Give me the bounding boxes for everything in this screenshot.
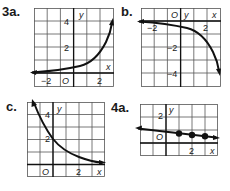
- tick-label-x-2: 2: [203, 23, 208, 33]
- tick-label-y-neg4: −4: [167, 69, 177, 79]
- y-axis-label: y: [168, 105, 174, 115]
- problem-label-b: b.: [121, 5, 133, 18]
- y-axis-label: y: [183, 10, 189, 20]
- tick-label-x-2: 2: [97, 76, 102, 86]
- tick-label-x-2: 2: [189, 146, 194, 156]
- arrow-left-icon: [30, 70, 37, 75]
- data-point: [202, 133, 208, 139]
- y-axis-label: y: [56, 104, 62, 114]
- origin-label: O: [42, 167, 49, 177]
- x-axis-label: x: [105, 62, 111, 72]
- tick-label-x-2: 2: [76, 167, 81, 177]
- tick-label-y-4: 4: [45, 110, 50, 120]
- origin-label: O: [62, 76, 69, 86]
- data-point: [176, 130, 182, 136]
- origin-label: O: [156, 132, 163, 142]
- arrow-left-icon: [135, 126, 142, 131]
- tick-label-y-2: 2: [64, 43, 69, 53]
- tick-label-y-2: 2: [158, 111, 163, 121]
- tick-label-y-2: 2: [45, 134, 50, 144]
- x-axis-label: x: [211, 10, 217, 20]
- data-point: [189, 132, 195, 138]
- tick-label-x-neg2: −2: [41, 76, 51, 86]
- problem-label-c: c.: [6, 100, 17, 113]
- tick-label-y-4: 4: [64, 17, 69, 27]
- arrow-left-icon: [137, 19, 144, 24]
- tick-label-x-neg2: −2: [147, 23, 157, 33]
- graph-c: y 4 2 O 2 x: [27, 102, 105, 177]
- x-axis-label: x: [96, 167, 102, 177]
- arrow-right-icon: [213, 135, 220, 140]
- x-axis-label: x: [209, 146, 215, 156]
- tick-label-y-neg2: −2: [167, 43, 177, 53]
- y-axis-label: y: [78, 10, 84, 20]
- graph-4a: y 2 O 2 x: [140, 104, 218, 156]
- graph-b: O y x −2 2 −2 −4: [141, 8, 221, 87]
- problem-label-4a: 4a.: [111, 101, 129, 114]
- graph-3a: y x 4 2 −2 O 2: [34, 8, 114, 87]
- origin-label: O: [171, 10, 178, 20]
- problem-label-3a: 3a.: [2, 5, 20, 18]
